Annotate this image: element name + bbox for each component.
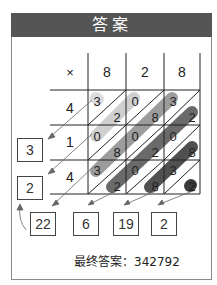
left-digit: 4 xyxy=(66,100,74,116)
svg-text:0: 0 xyxy=(131,163,138,178)
svg-text:0: 0 xyxy=(131,129,138,144)
svg-text:2: 2 xyxy=(188,110,195,125)
bottom-sum-box: 2 xyxy=(151,212,177,236)
svg-text:0: 0 xyxy=(169,129,176,144)
final-answer-label: 最终答案： xyxy=(74,255,134,269)
svg-text:3: 3 xyxy=(169,163,176,178)
svg-text:8: 8 xyxy=(113,145,120,160)
svg-text:8: 8 xyxy=(188,145,195,160)
multiply-symbol: × xyxy=(66,65,74,80)
svg-text:2: 2 xyxy=(113,110,120,125)
svg-text:0: 0 xyxy=(131,94,138,109)
svg-text:0: 0 xyxy=(93,129,100,144)
svg-text:3: 3 xyxy=(93,163,100,178)
svg-text:2: 2 xyxy=(151,145,158,160)
left-digit: 4 xyxy=(66,169,74,185)
bottom-sum-box: 6 xyxy=(73,212,99,236)
svg-text:8: 8 xyxy=(151,110,158,125)
final-answer: 最终答案：342792 xyxy=(74,252,180,269)
bottom-sum-box: 22 xyxy=(30,212,56,236)
svg-text:3: 3 xyxy=(93,94,100,109)
top-digit: 8 xyxy=(103,64,111,80)
svg-text:2: 2 xyxy=(113,179,120,194)
left-sum-box: 2 xyxy=(17,176,43,200)
svg-text:2: 2 xyxy=(188,179,195,194)
left-sum-box: 3 xyxy=(17,138,43,162)
left-digit: 1 xyxy=(66,134,74,150)
svg-text:3: 3 xyxy=(169,94,176,109)
bottom-sum-box: 19 xyxy=(113,212,139,236)
top-digit: 2 xyxy=(141,64,149,80)
svg-text:8: 8 xyxy=(151,179,158,194)
final-answer-value: 342792 xyxy=(134,255,180,269)
top-digit: 8 xyxy=(178,64,186,80)
